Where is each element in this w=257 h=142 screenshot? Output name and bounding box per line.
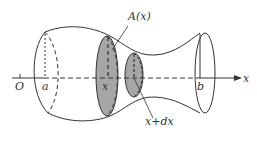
x-section-label: x <box>102 80 109 93</box>
solid-volume-diagram: O a x b x A(x) x+dx <box>0 0 257 142</box>
b-label: b <box>197 80 204 93</box>
x-plus-dx-label: x+dx <box>145 115 174 128</box>
body-bottom-outline <box>48 97 200 121</box>
body-top-outline <box>45 27 200 55</box>
x-axis-label: x <box>243 72 250 85</box>
left-end-front-arc <box>34 32 48 113</box>
right-end-ellipse <box>195 33 215 113</box>
area-label: A(x) <box>127 10 151 23</box>
x-axis-arrow-icon <box>234 75 242 81</box>
diagram-svg: O a x b x A(x) x+dx <box>0 0 257 142</box>
dx-leader-line <box>134 78 153 118</box>
left-end-back-arc <box>45 32 58 113</box>
cross-section-a-x <box>96 36 118 116</box>
a-label: a <box>42 80 49 93</box>
origin-label: O <box>15 80 24 93</box>
